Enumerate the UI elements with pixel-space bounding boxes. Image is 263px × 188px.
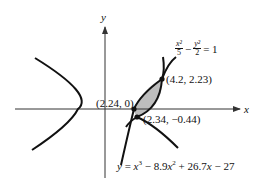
- x-axis-label: x: [244, 104, 249, 115]
- point-2-34-neg0-44: [134, 114, 139, 119]
- hyperbola-left-branch: [32, 58, 82, 150]
- point-label-2-24-0: (2.24, 0): [96, 98, 134, 109]
- y-axis-label: y: [101, 12, 106, 23]
- fraction-x: x² 5: [175, 40, 183, 57]
- fraction-y: y² 2: [193, 40, 201, 57]
- cubic-equation: y = x3 − 8.9x2 + 26.7x − 27: [117, 159, 234, 172]
- point-label-4-2-2-23: (4.2, 2.23): [166, 74, 212, 85]
- hyperbola-equation: x² 5 − y² 2 = 1: [175, 40, 220, 57]
- point-4-2-2-23: [159, 76, 164, 81]
- point-label-2-34-neg0-44: (2.34, −0.44): [143, 114, 201, 125]
